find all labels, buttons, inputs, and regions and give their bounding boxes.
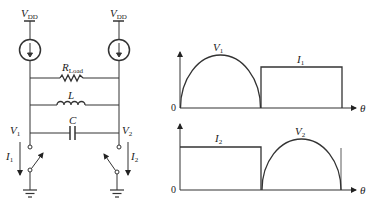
theta-label-top: θ — [360, 102, 366, 114]
inductor-icon — [30, 102, 119, 105]
series-label-v2: V2 — [295, 125, 306, 139]
chart-bottom — [180, 124, 356, 190]
current-source-right-icon — [109, 40, 130, 61]
label-v2: V2 — [122, 124, 133, 138]
theta-label-bottom: θ — [360, 184, 366, 196]
label-vdd-right: VDD — [110, 7, 127, 21]
label-vdd-left: VDD — [21, 7, 38, 21]
ground-left-icon — [23, 190, 37, 197]
label-i1: I1 — [5, 150, 14, 164]
series-label-v1: V1 — [213, 41, 224, 55]
label-rload: RLoad — [61, 61, 84, 75]
v2-waveform — [262, 139, 341, 190]
ground-right-icon — [110, 190, 124, 197]
resistor-icon — [30, 75, 119, 81]
origin-label-bottom: 0 — [171, 184, 176, 195]
i2-waveform — [180, 147, 261, 190]
i1-waveform — [261, 67, 342, 108]
series-label-i2: I2 — [214, 132, 223, 146]
origin-label-top: 0 — [171, 102, 176, 113]
series-label-i1: I1 — [296, 53, 305, 67]
chart-top — [180, 52, 356, 108]
switch-left-icon — [28, 145, 43, 190]
label-capacitor: C — [69, 114, 77, 126]
label-v1: V1 — [10, 124, 21, 138]
capacitor-icon — [30, 126, 119, 140]
switch-right-icon — [104, 145, 121, 190]
class-e-circuit-diagram: VDD VDD RLoad L C V1 V2 I1 I2 0 θ V1 I1 … — [0, 0, 374, 206]
circuit — [20, 21, 130, 197]
label-inductor: L — [67, 89, 74, 101]
current-source-left-icon — [20, 40, 41, 61]
v1-waveform — [181, 55, 261, 108]
label-i2: I2 — [130, 150, 139, 164]
